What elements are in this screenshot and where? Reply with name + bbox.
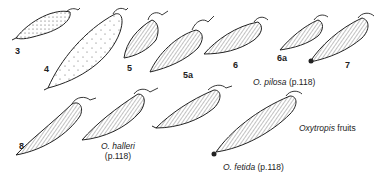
page-ref-fetida: (p.118): [258, 162, 284, 172]
fruit-illustrations: [0, 0, 379, 176]
oxytropis-fruits-figure: 3 4 5 5a 6 6a 7 8 O. pilosa (p.118) O. h…: [0, 0, 379, 176]
figure-number-6a: 6a: [277, 53, 287, 63]
label-o-pilosa: O. pilosa (p.118): [253, 77, 315, 87]
caption-genus: Oxytropis: [299, 123, 335, 133]
fruit-6a: [280, 15, 328, 50]
figure-number-5a: 5a: [183, 70, 193, 80]
fruit-middle-bottom: [152, 85, 232, 128]
fruit-5: [124, 11, 168, 58]
figure-number-4: 4: [44, 64, 49, 74]
fruit-fetida: [212, 91, 303, 156]
species-name-pilosa: O. pilosa: [253, 77, 287, 87]
figure-number-8: 8: [19, 141, 24, 151]
caption-rest: fruits: [335, 123, 356, 133]
species-name-fetida: O. fetida: [223, 162, 255, 172]
page-ref-halleri: (p.118): [90, 151, 146, 161]
label-o-halleri: O. halleri (p.118): [90, 141, 146, 161]
fruit-3: [12, 8, 80, 40]
figure-number-7: 7: [345, 60, 350, 70]
label-o-fetida: O. fetida (p.118): [223, 162, 284, 172]
species-name-halleri: O. halleri: [90, 141, 146, 151]
fruit-6: [204, 17, 268, 54]
fruit-5a: [150, 16, 214, 72]
fruit-8: [16, 97, 96, 155]
page-ref-pilosa: (p.118): [289, 77, 315, 87]
fruit-halleri: [82, 88, 158, 140]
figure-number-3: 3: [15, 46, 20, 56]
figure-number-6: 6: [233, 60, 238, 70]
figure-caption: Oxytropis fruits: [299, 123, 356, 133]
figure-number-5: 5: [127, 63, 132, 73]
